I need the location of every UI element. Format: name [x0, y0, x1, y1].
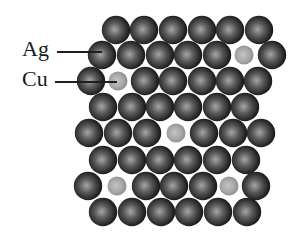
ag-atom — [233, 198, 261, 226]
ag-atom — [203, 146, 231, 174]
lattice-row — [89, 93, 259, 121]
ag-atom — [216, 67, 244, 95]
ag-atom — [190, 119, 218, 147]
ag-atom — [117, 41, 145, 69]
ag-atom — [89, 146, 117, 174]
ag-atom — [245, 16, 273, 44]
lattice-row — [88, 41, 286, 69]
cu-leader-line — [55, 81, 117, 82]
ag-atom — [175, 198, 203, 226]
ag-atom — [174, 41, 202, 69]
ag-atom — [131, 67, 159, 95]
ag-atom — [203, 93, 231, 121]
lattice-row — [102, 16, 273, 44]
ag-atom — [242, 172, 270, 200]
ag-atom — [232, 146, 260, 174]
ag-atom — [146, 93, 174, 121]
ag-atom — [89, 198, 117, 226]
ag-atom — [188, 67, 216, 95]
ag-atom — [130, 16, 158, 44]
ag-atom — [204, 198, 232, 226]
ag-atom — [159, 16, 187, 44]
ag-atom — [247, 119, 275, 147]
ag-atom — [89, 93, 117, 121]
ag-atom — [118, 93, 146, 121]
atoms-layer — [74, 16, 286, 226]
cu-atom — [220, 177, 239, 196]
ag-atom — [133, 119, 161, 147]
cu-label: Cu — [22, 68, 48, 90]
ag-atom — [74, 172, 102, 200]
ag-atom — [104, 119, 132, 147]
lattice-row — [75, 119, 275, 147]
cu-atom — [108, 177, 127, 196]
ag-atom — [188, 16, 216, 44]
ag-atom — [146, 41, 174, 69]
ag-atom — [159, 67, 187, 95]
lattice-row — [89, 146, 260, 174]
ag-atom — [231, 93, 259, 121]
cu-atom — [235, 46, 254, 65]
ag-atom — [146, 146, 174, 174]
ag-atom — [102, 16, 130, 44]
ag-atom — [118, 198, 146, 226]
lattice-row — [74, 172, 270, 200]
ag-atom — [147, 198, 175, 226]
ag-atom — [118, 146, 146, 174]
ag-atom — [132, 172, 160, 200]
ag-atom — [244, 67, 272, 95]
lattice-row — [89, 198, 261, 226]
ag-atom — [189, 172, 217, 200]
ag-atom — [88, 41, 116, 69]
ag-atom — [216, 16, 244, 44]
atomic-lattice-diagram — [0, 0, 301, 233]
ag-label: Ag — [22, 38, 49, 60]
ag-atom — [174, 146, 202, 174]
ag-atom — [258, 41, 286, 69]
ag-atom — [160, 172, 188, 200]
ag-leader-line — [57, 51, 102, 52]
ag-atom — [75, 119, 103, 147]
ag-atom — [219, 119, 247, 147]
cu-atom — [167, 124, 186, 143]
ag-atom — [174, 93, 202, 121]
ag-atom — [203, 41, 231, 69]
